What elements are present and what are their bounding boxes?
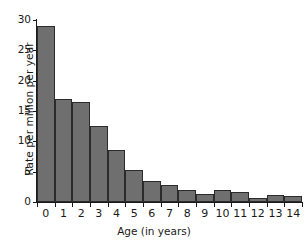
x-tick-label-9: 9 <box>196 207 214 221</box>
y-tick-label: 10 <box>18 134 31 147</box>
x-tick-label-3: 3 <box>90 207 108 221</box>
x-tick-label-2: 2 <box>72 207 90 221</box>
x-tick-label-0: 0 <box>37 207 55 221</box>
x-tick-mark <box>302 203 303 207</box>
y-tick-30: 30 <box>0 20 37 21</box>
bar-age-7 <box>161 185 179 202</box>
y-tick-0: 0 <box>0 202 37 203</box>
bar-age-1 <box>55 99 73 202</box>
y-tick-label: 25 <box>18 43 31 56</box>
x-axis-line <box>36 202 303 203</box>
bar-age-0 <box>37 26 55 202</box>
x-tick-label-12: 12 <box>249 207 267 221</box>
y-tick-label: 5 <box>24 165 31 178</box>
x-tick-label-7: 7 <box>161 207 179 221</box>
y-tick-15: 15 <box>0 111 37 112</box>
x-tick-label-4: 4 <box>108 207 126 221</box>
y-tick-label: 20 <box>18 74 31 87</box>
bar-age-14 <box>284 196 302 202</box>
y-tick-20: 20 <box>0 81 37 82</box>
bar-age-8 <box>178 190 196 202</box>
plot-area <box>37 20 302 202</box>
bar-age-4 <box>108 150 126 202</box>
y-tick-25: 25 <box>0 50 37 51</box>
x-tick-label-11: 11 <box>231 207 249 221</box>
x-tick-label-13: 13 <box>267 207 285 221</box>
bar-age-6 <box>143 181 161 202</box>
y-tick-5: 5 <box>0 172 37 173</box>
bar-age-9 <box>196 194 214 202</box>
bar-age-5 <box>125 170 143 202</box>
bar-age-10 <box>214 190 232 202</box>
bar-chart-figure: Rate per million per year 051015202530 0… <box>0 0 308 246</box>
bar-age-12 <box>249 198 267 202</box>
y-tick-label: 30 <box>18 13 31 26</box>
bar-age-11 <box>231 192 249 202</box>
x-tick-label-14: 14 <box>284 207 302 221</box>
x-tick-label-8: 8 <box>178 207 196 221</box>
y-tick-label: 0 <box>24 195 31 208</box>
x-tick-label-10: 10 <box>214 207 232 221</box>
bar-age-3 <box>90 126 108 202</box>
x-tick-label-6: 6 <box>143 207 161 221</box>
bar-age-2 <box>72 102 90 202</box>
y-tick-label: 15 <box>18 104 31 117</box>
y-tick-10: 10 <box>0 141 37 142</box>
x-axis-title: Age (in years) <box>0 225 308 237</box>
x-tick-label-1: 1 <box>55 207 73 221</box>
bar-age-13 <box>267 195 285 202</box>
x-tick-label-5: 5 <box>125 207 143 221</box>
